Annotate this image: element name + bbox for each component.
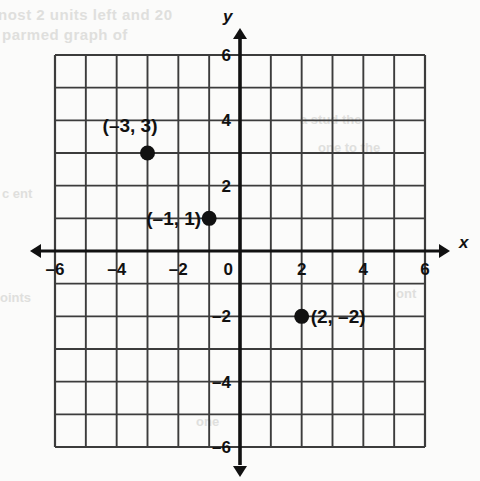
data-point [140,146,155,161]
data-points [140,146,309,324]
worksheet-page: nost 2 units left and 20 parmed graph of… [0,0,480,481]
coordinate-plane [0,0,480,481]
data-point [294,309,309,324]
coordinate-plane-svg [0,0,480,481]
axis-lines [30,28,450,477]
data-point [202,211,217,226]
